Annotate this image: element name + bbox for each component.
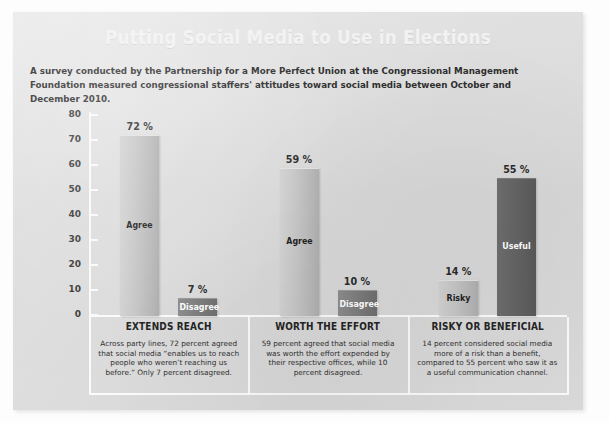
bar-label: Useful (498, 241, 534, 251)
bar-value-label: 7 % (170, 284, 225, 295)
plot-area: 01020304050607080 Agree72 %Disagree7 %Ag… (13, 12, 583, 410)
bar-label: Disagree (339, 299, 375, 309)
bar-label: Disagree (180, 302, 216, 312)
bar-value-label: 59 % (272, 154, 327, 165)
bar: Agree (120, 135, 159, 316)
bar: Agree (280, 168, 319, 317)
bar: Disagree (178, 298, 217, 317)
y-axis-tick-label: 40 (55, 209, 81, 219)
bar-label: Risky (440, 293, 476, 303)
y-axis-tick-mark (91, 289, 98, 291)
group-divider (408, 317, 410, 395)
y-axis-tick-mark (91, 189, 98, 191)
y-axis-tick-mark (91, 314, 98, 316)
y-axis-tick-label: 60 (55, 159, 81, 169)
y-axis-tick-label: 30 (55, 234, 81, 244)
bar-label: Agree (122, 220, 158, 230)
y-axis-tick-mark (91, 264, 98, 266)
category-label: RISKY OR BENEFICIAL (413, 321, 561, 332)
chart-page: Putting Social Media to Use in Elections… (0, 0, 609, 423)
bar-value-label: 10 % (330, 276, 385, 287)
bar-value-label: 14 % (431, 266, 486, 277)
bar: Disagree (338, 290, 377, 316)
group-divider (248, 317, 250, 395)
group-divider (567, 317, 569, 395)
chart-panel: Putting Social Media to Use in Elections… (13, 12, 583, 410)
y-axis-tick-label: 20 (55, 259, 81, 269)
y-axis-tick-mark (91, 164, 98, 166)
y-axis-tick-mark (91, 214, 98, 216)
category-label: EXTENDS REACH (95, 321, 243, 332)
group-divider (89, 317, 91, 395)
category-label: WORTH THE EFFORT (254, 321, 402, 332)
x-axis-baseline (89, 315, 567, 317)
y-axis-tick-label: 10 (55, 284, 81, 294)
bar: Risky (439, 280, 478, 316)
y-axis-tick-label: 50 (55, 184, 81, 194)
bar-label: Agree (281, 236, 317, 246)
bar-value-label: 72 % (112, 121, 167, 132)
bar: Useful (497, 178, 536, 317)
bar-value-label: 55 % (489, 164, 544, 175)
y-axis-tick-mark (91, 114, 98, 116)
y-axis-tick-label: 0 (55, 309, 81, 319)
y-axis-tick-label: 80 (55, 109, 81, 119)
y-axis-tick-label: 70 (55, 134, 81, 144)
category-caption: 59 percent agreed that social media was … (257, 339, 398, 377)
category-caption: Across party lines, 72 percent agreed th… (98, 339, 239, 377)
y-axis-tick-mark (91, 139, 98, 141)
y-axis-tick-mark (91, 239, 98, 241)
category-caption: 14 percent considered social media more … (417, 339, 558, 377)
category-box-bottom-line (89, 393, 567, 395)
